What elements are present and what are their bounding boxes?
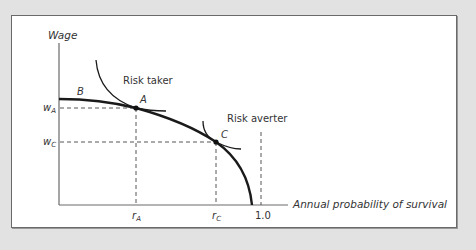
rc-tick-label: rC <box>212 210 221 223</box>
point-b-label: B <box>77 86 84 97</box>
y-axis-label: Wage <box>48 29 77 41</box>
wc-sub: C <box>51 141 56 149</box>
point-a-label: A <box>139 94 147 105</box>
x-axis-label: Annual probability of survival <box>292 198 447 210</box>
rc-sub: C <box>216 215 221 223</box>
ra-sub: A <box>135 215 141 223</box>
wage-frontier-curve <box>59 99 252 205</box>
wa-sub: A <box>50 107 56 115</box>
wage-risk-diagram: Wage B A C Risk taker Risk averter wA wC… <box>0 0 476 250</box>
wa-tick-label: wA <box>43 102 56 115</box>
ra-tick-label: rA <box>132 210 141 223</box>
risk-taker-label: Risk taker <box>123 75 174 86</box>
risk-averter-label: Risk averter <box>227 113 288 124</box>
point-c-label: C <box>221 129 228 140</box>
one-tick-label: 1.0 <box>255 210 271 221</box>
wc-tick-label: wC <box>43 136 56 149</box>
point-c <box>213 139 218 144</box>
point-a <box>133 105 138 110</box>
